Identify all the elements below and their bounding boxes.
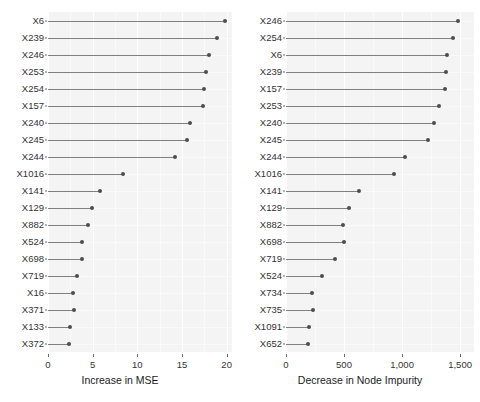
- gridline-vertical: [286, 12, 287, 352]
- gridline-horizontal: [48, 293, 232, 294]
- data-point[interactable]: [173, 155, 177, 159]
- y-axis-label: X157: [260, 84, 282, 94]
- data-point[interactable]: [451, 36, 455, 40]
- data-point[interactable]: [310, 291, 314, 295]
- y-axis-label: X133: [22, 322, 44, 332]
- gridline-vertical: [93, 12, 94, 352]
- x-axis-tick: [93, 354, 94, 357]
- y-axis-tick: [283, 71, 285, 72]
- data-point[interactable]: [311, 308, 315, 312]
- lollipop-segment: [286, 123, 434, 124]
- y-axis-label: X253: [260, 101, 282, 111]
- y-axis-tick: [283, 173, 285, 174]
- y-axis-tick: [283, 190, 285, 191]
- x-axis-tick: [460, 354, 461, 357]
- data-point[interactable]: [392, 172, 396, 176]
- data-point[interactable]: [306, 342, 310, 346]
- y-axis-tick: [283, 105, 285, 106]
- data-point[interactable]: [307, 325, 311, 329]
- data-point[interactable]: [426, 138, 430, 142]
- data-point[interactable]: [71, 291, 75, 295]
- data-point[interactable]: [215, 36, 219, 40]
- x-axis-tick-label: 15: [177, 359, 188, 370]
- data-point[interactable]: [188, 121, 192, 125]
- lollipop-segment: [286, 191, 359, 192]
- y-axis-label: X141: [22, 186, 44, 196]
- data-point[interactable]: [90, 206, 94, 210]
- data-point[interactable]: [86, 223, 90, 227]
- lollipop-segment: [48, 89, 204, 90]
- y-axis-tick: [45, 292, 47, 293]
- y-axis-tick: [283, 37, 285, 38]
- data-point[interactable]: [72, 308, 76, 312]
- gridline-horizontal: [286, 293, 474, 294]
- x-axis-tick: [286, 354, 287, 357]
- y-axis-label: X239: [22, 33, 44, 43]
- lollipop-segment: [286, 106, 439, 107]
- data-point[interactable]: [75, 274, 79, 278]
- gridline-vertical: [227, 12, 228, 352]
- y-axis-label: X698: [260, 237, 282, 247]
- y-axis-tick: [45, 156, 47, 157]
- variable-importance-figure: Increase in MSE X6X239X246X253X254X157X2…: [0, 0, 480, 402]
- data-point[interactable]: [456, 19, 460, 23]
- data-point[interactable]: [98, 189, 102, 193]
- y-axis-label: X246: [22, 50, 44, 60]
- data-point[interactable]: [207, 53, 211, 57]
- data-point[interactable]: [80, 240, 84, 244]
- y-axis-label: X16: [27, 288, 44, 298]
- data-point[interactable]: [357, 189, 361, 193]
- data-point[interactable]: [342, 240, 346, 244]
- y-axis-label: X719: [22, 271, 44, 281]
- x-axis-tick-label: 1,000: [390, 359, 414, 370]
- data-point[interactable]: [185, 138, 189, 142]
- x-axis-tick-label: 5: [90, 359, 95, 370]
- y-axis-tick: [45, 139, 47, 140]
- x-axis-title-left: Increase in MSE: [0, 374, 240, 386]
- data-point[interactable]: [202, 87, 206, 91]
- x-axis-tick-label: 0: [45, 359, 50, 370]
- data-point[interactable]: [347, 206, 351, 210]
- data-point[interactable]: [403, 155, 407, 159]
- lollipop-segment: [48, 38, 217, 39]
- data-point[interactable]: [432, 121, 436, 125]
- y-axis-label: X254: [22, 84, 44, 94]
- y-axis-tick: [283, 292, 285, 293]
- data-point[interactable]: [320, 274, 324, 278]
- y-axis-label: X698: [22, 254, 44, 264]
- gridline-vertical: [344, 12, 345, 352]
- data-point[interactable]: [68, 325, 72, 329]
- data-point[interactable]: [437, 104, 441, 108]
- lollipop-segment: [286, 276, 322, 277]
- gridline-vertical: [460, 12, 461, 352]
- y-axis-tick: [283, 54, 285, 55]
- data-point[interactable]: [204, 70, 208, 74]
- lollipop-segment: [286, 208, 349, 209]
- y-axis-tick: [283, 20, 285, 21]
- data-point[interactable]: [443, 87, 447, 91]
- lollipop-segment: [48, 106, 203, 107]
- y-axis-label: X652: [260, 339, 282, 349]
- x-axis-tick: [344, 354, 345, 357]
- lollipop-segment: [48, 225, 88, 226]
- x-axis-tick: [137, 354, 138, 357]
- data-point[interactable]: [223, 19, 227, 23]
- y-axis-label: X244: [260, 152, 282, 162]
- gridline-vertical-minor: [431, 12, 432, 352]
- gridline-vertical: [402, 12, 403, 352]
- lollipop-segment: [286, 89, 445, 90]
- y-axis-tick: [45, 122, 47, 123]
- data-point[interactable]: [445, 53, 449, 57]
- y-axis-tick: [45, 71, 47, 72]
- data-point[interactable]: [333, 257, 337, 261]
- lollipop-segment: [48, 140, 187, 141]
- data-point[interactable]: [80, 257, 84, 261]
- data-point[interactable]: [201, 104, 205, 108]
- data-point[interactable]: [341, 223, 345, 227]
- gridline-vertical-minor: [115, 12, 116, 352]
- y-axis-label: X239: [260, 67, 282, 77]
- data-point[interactable]: [444, 70, 448, 74]
- y-axis-tick: [283, 309, 285, 310]
- data-point[interactable]: [121, 172, 125, 176]
- y-axis-label: X6: [270, 50, 282, 60]
